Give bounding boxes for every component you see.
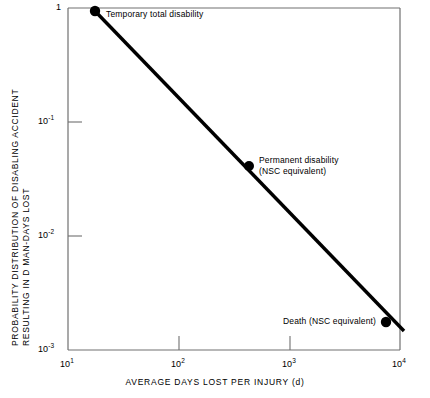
ytick-label-1: 1 — [56, 2, 61, 12]
axes-frame — [68, 8, 400, 350]
ytick-label-1e-2: 10-2 — [38, 230, 54, 240]
chart-figure: 1 10-1 10-2 10-3 101 102 103 104 AVERAGE… — [0, 0, 430, 398]
xtick-label-1e3: 103 — [282, 359, 296, 369]
y-tick-marks — [68, 122, 82, 236]
annotation-permanent-disability: Permanent disability (NSC equivalent) — [259, 155, 339, 177]
y-axis-title-line-2: RESULTING IN D MAN-DAYS LOST — [21, 188, 31, 346]
annotation-death: Death (NSC equivalent) — [283, 316, 376, 327]
ytick-label-1e-1: 10-1 — [38, 116, 54, 126]
data-point-temporary-total-disability — [90, 6, 100, 16]
y-axis-title-line-1: PROBABILITY DISTRIBUTION OF DISABLING AC… — [10, 89, 20, 346]
plot-canvas — [0, 0, 430, 398]
ytick-label-1e-3: 10-3 — [38, 344, 54, 354]
xtick-label-1e4: 104 — [392, 359, 406, 369]
xtick-label-1e1: 101 — [60, 359, 74, 369]
annotation-permanent-disability-line-1: Permanent disability — [259, 155, 339, 166]
x-axis-title: AVERAGE DAYS LOST PER INJURY (d) — [0, 377, 430, 387]
annotation-temporary-total-disability: Temporary total disability — [106, 9, 203, 20]
data-point-permanent-disability — [244, 161, 254, 171]
xtick-label-1e2: 102 — [171, 359, 185, 369]
x-tick-marks — [179, 336, 290, 350]
data-point-death — [381, 317, 391, 327]
y-axis-title: PROBABILITY DISTRIBUTION OF DISABLING AC… — [10, 0, 40, 350]
annotation-permanent-disability-line-2: (NSC equivalent) — [259, 166, 339, 177]
